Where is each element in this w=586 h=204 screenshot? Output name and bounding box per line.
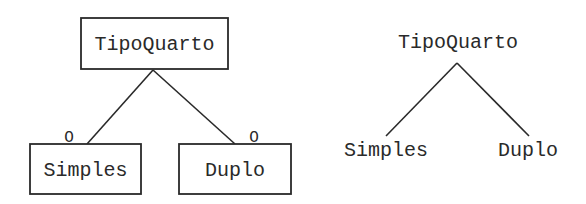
- tree-edge-duplo: [457, 63, 529, 136]
- duplo-label: Duplo: [205, 159, 265, 182]
- simples-label: Simples: [43, 159, 127, 182]
- tree-edge-simples: [386, 63, 457, 136]
- diagram-canvas: TipoQuarto Simples Duplo O O TipoQuarto …: [0, 0, 586, 204]
- tipoquarto-label: TipoQuarto: [94, 33, 214, 56]
- tree-simples-label: Simples: [344, 139, 428, 162]
- edge-tipoquarto-simples: [87, 70, 153, 144]
- tree-duplo-label: Duplo: [498, 139, 558, 162]
- tree-tipoquarto-label: TipoQuarto: [398, 31, 518, 54]
- edge-tipoquarto-duplo: [153, 70, 235, 144]
- simples-optional-marker: O: [64, 129, 74, 147]
- left-diagram: TipoQuarto Simples Duplo O O: [30, 18, 291, 194]
- duplo-optional-marker: O: [249, 129, 259, 147]
- right-diagram: TipoQuarto Simples Duplo: [344, 31, 558, 162]
